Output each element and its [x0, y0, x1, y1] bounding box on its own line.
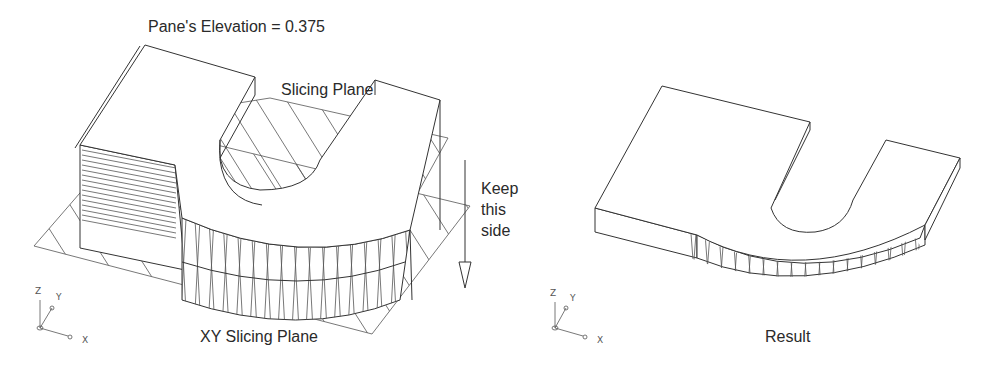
axis-y-label-right: Y — [570, 293, 576, 303]
u-block-result — [595, 86, 960, 300]
facet-line — [418, 200, 425, 330]
facet-line — [915, 220, 921, 300]
axis-triad-right — [552, 302, 587, 339]
axis-y-label-left: Y — [56, 292, 62, 302]
xy-hatch-line — [0, 120, 84, 340]
keep-side-arrow — [459, 160, 471, 288]
result-caption: Result — [765, 328, 810, 346]
xy-hatch-line — [448, 120, 588, 340]
axis-x-label-left: X — [82, 335, 88, 345]
keep-label-line1: Keep — [481, 180, 518, 198]
u-block-left — [75, 45, 440, 330]
slicing-hatch-line — [430, 90, 530, 250]
axis-z-label-left: Z — [35, 286, 41, 296]
facet-line — [914, 220, 920, 300]
axis-x-label-right: X — [597, 335, 603, 345]
axis-triad-left — [37, 300, 72, 339]
elevation-title: Pane's Elevation = 0.375 — [148, 18, 325, 36]
xy-slicing-plane-label: XY Slicing Plane — [200, 328, 318, 346]
xy-hatch-line — [0, 120, 48, 340]
axis-z-label-right: Z — [550, 288, 556, 298]
slicing-plane-label: Slicing Plane — [281, 81, 374, 99]
keep-label-line2: this — [481, 201, 506, 219]
xy-hatch-line — [0, 120, 12, 340]
keep-label-line3: side — [481, 222, 510, 240]
